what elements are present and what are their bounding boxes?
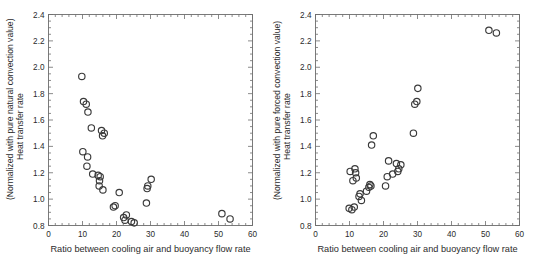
left-y-tick-label: 2.0: [33, 63, 45, 72]
data-point-marker: [368, 142, 374, 148]
data-point-marker: [88, 125, 94, 131]
right-y-axis-title: (Normalized with pure forced convection …: [272, 21, 292, 200]
right-y-tick-label: 2.2: [300, 37, 312, 46]
data-point-marker: [219, 210, 225, 216]
left-y-tick-label: 1.4: [33, 142, 45, 151]
data-point-marker: [486, 27, 492, 33]
left-axis-ticks: [49, 15, 253, 226]
right-y-tick-label: 1.4: [300, 142, 312, 151]
left-x-axis-title: Ratio between cooling air and buoyancy f…: [50, 244, 250, 254]
left-y-tick-label: 1.0: [33, 195, 45, 204]
left-tick-labels: 01020304050600.81.01.21.41.61.82.02.22.4: [33, 11, 257, 239]
right-x-tick-label: 40: [447, 230, 457, 239]
data-point-marker: [85, 109, 91, 115]
left-plot-frame: [49, 15, 253, 226]
data-point-marker: [385, 158, 391, 164]
left-x-tick-label: 40: [180, 230, 190, 239]
data-point-marker: [100, 187, 106, 193]
right-y-tick-label: 1.0: [300, 195, 312, 204]
right-scatter-plot: (Normalized with pure forced convection …: [267, 0, 534, 263]
data-point-marker: [80, 148, 86, 154]
left-y-tick-label: 1.8: [33, 90, 45, 99]
data-point-marker: [382, 183, 388, 189]
data-point-marker: [79, 73, 85, 79]
left-y-axis-title-line2: Heat transfer rate: [15, 93, 25, 160]
right-x-tick-label: 10: [345, 230, 355, 239]
data-point-marker: [110, 204, 116, 210]
two-panel-scatter-figure: (Normalized with pure natural convection…: [0, 0, 534, 263]
right-y-tick-label: 2.4: [300, 11, 312, 20]
right-x-tick-label: 0: [313, 230, 318, 239]
right-x-tick-label: 60: [515, 230, 525, 239]
right-y-tick-label: 1.8: [300, 90, 312, 99]
right-y-axis-title-line2: Heat transfer rate: [282, 93, 292, 160]
chart-panel-left: (Normalized with pure natural convection…: [0, 0, 267, 263]
left-y-axis-title: (Normalized with pure natural convection…: [5, 18, 25, 200]
right-y-tick-label: 0.8: [300, 222, 312, 231]
left-y-tick-label: 1.2: [33, 169, 45, 178]
left-x-tick-label: 20: [112, 230, 122, 239]
chart-panel-right: (Normalized with pure forced convection …: [267, 0, 534, 263]
data-point-marker: [84, 163, 90, 169]
left-x-tick-label: 0: [46, 230, 51, 239]
right-data-points: [346, 27, 500, 213]
right-plot-frame: [316, 15, 520, 226]
right-y-axis-title-line1: (Normalized with pure forced convection …: [272, 21, 282, 200]
left-x-tick-label: 10: [78, 230, 88, 239]
left-y-tick-label: 0.8: [33, 222, 45, 231]
left-scatter-plot: (Normalized with pure natural convection…: [0, 0, 267, 263]
data-point-marker: [84, 154, 90, 160]
data-point-marker: [415, 85, 421, 91]
left-y-tick-label: 2.4: [33, 11, 45, 20]
right-y-tick-label: 2.0: [300, 63, 312, 72]
left-x-tick-label: 50: [214, 230, 224, 239]
right-axis-ticks: [316, 15, 520, 226]
left-y-tick-label: 2.2: [33, 37, 45, 46]
right-x-tick-label: 30: [413, 230, 423, 239]
left-y-axis-title-line1: (Normalized with pure natural convection…: [5, 18, 15, 200]
data-point-marker: [410, 130, 416, 136]
left-x-tick-label: 60: [248, 230, 258, 239]
left-x-tick-label: 30: [146, 230, 156, 239]
data-point-marker: [227, 216, 233, 222]
data-point-marker: [143, 200, 149, 206]
left-data-points: [79, 73, 234, 226]
right-y-tick-label: 1.6: [300, 116, 312, 125]
data-point-marker: [493, 30, 499, 36]
right-y-tick-label: 1.2: [300, 169, 312, 178]
right-x-axis-title: Ratio between cooling air and buoyancy f…: [317, 244, 517, 254]
right-x-tick-label: 50: [481, 230, 491, 239]
right-x-tick-label: 20: [379, 230, 389, 239]
data-point-marker: [116, 189, 122, 195]
data-point-marker: [148, 176, 154, 182]
right-tick-labels: 01020304050600.81.01.21.41.61.82.02.22.4: [300, 11, 524, 239]
data-point-marker: [370, 133, 376, 139]
left-y-tick-label: 1.6: [33, 116, 45, 125]
